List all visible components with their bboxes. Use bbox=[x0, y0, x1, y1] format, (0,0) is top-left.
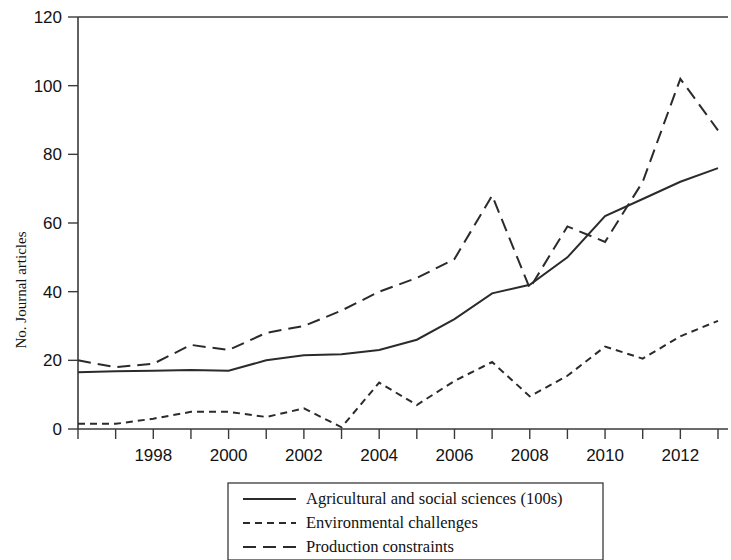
data-series-line bbox=[78, 168, 718, 372]
x-tick-label: 2002 bbox=[285, 446, 323, 465]
data-series-line bbox=[78, 321, 718, 427]
y-axis-tick-labels: 020406080100120 bbox=[34, 8, 62, 439]
data-series-group bbox=[78, 79, 718, 427]
x-tick-label: 2006 bbox=[436, 446, 474, 465]
x-tick-label: 1998 bbox=[134, 446, 172, 465]
x-axis-tick-labels: 19982000200220042006200820102012 bbox=[134, 446, 699, 465]
y-tick-label: 100 bbox=[34, 77, 62, 96]
x-tick-label: 2012 bbox=[661, 446, 699, 465]
x-axis-ticks bbox=[78, 429, 718, 439]
chart-legend: Agricultural and social sciences (100s)E… bbox=[228, 483, 603, 560]
y-tick-label: 0 bbox=[53, 420, 62, 439]
x-tick-label: 2004 bbox=[360, 446, 398, 465]
y-tick-label: 60 bbox=[43, 214, 62, 233]
y-tick-label: 20 bbox=[43, 351, 62, 370]
data-series-line bbox=[78, 79, 718, 367]
y-axis-ticks bbox=[68, 17, 78, 429]
y-tick-label: 80 bbox=[43, 145, 62, 164]
y-axis-group: 020406080100120 bbox=[34, 8, 78, 439]
legend-label: Agricultural and social sciences (100s) bbox=[306, 489, 563, 508]
legend-label: Environmental challenges bbox=[306, 513, 478, 532]
legend-label: Production constraints bbox=[306, 537, 454, 556]
x-tick-label: 2008 bbox=[511, 446, 549, 465]
y-tick-label: 40 bbox=[43, 283, 62, 302]
chart-figure: 020406080100120 199820002002200420062008… bbox=[0, 0, 731, 560]
y-tick-label: 120 bbox=[34, 8, 62, 27]
x-tick-label: 2000 bbox=[210, 446, 248, 465]
x-tick-label: 2010 bbox=[586, 446, 624, 465]
line-chart: 020406080100120 199820002002200420062008… bbox=[0, 0, 731, 560]
y-axis-title: No. Journal articles bbox=[13, 231, 29, 348]
x-axis-group: 19982000200220042006200820102012 bbox=[78, 429, 728, 465]
